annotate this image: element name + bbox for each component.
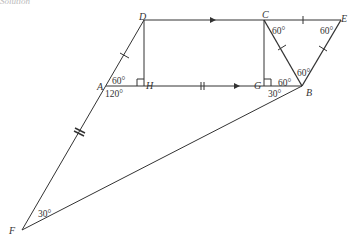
label-G: G [254,80,261,91]
angle-A-lower: 120° [105,89,123,99]
angle-C: 60° [272,26,286,36]
arrow-icon-DC [210,17,216,23]
label-A: A [96,81,104,92]
angle-B-mid: 60° [278,78,292,88]
label-E: E [340,13,347,24]
label-C: C [262,9,269,20]
right-angle-mark-H [137,79,144,86]
right-angle-mark-G [264,79,271,86]
arrow-icon-HG [234,83,240,89]
angle-E: 60° [320,26,334,36]
angle-B-lower: 30° [268,89,282,99]
label-H: H [145,80,154,91]
geometry-figure: D C E A H G B F 60° 120° 60° 60° 60° 60°… [0,0,352,239]
label-D: D [138,11,147,22]
angle-A-upper: 60° [112,76,126,86]
label-F: F [8,225,16,236]
label-B: B [306,87,312,98]
angle-B-top: 60° [297,68,311,78]
angle-F: 30° [38,209,52,219]
